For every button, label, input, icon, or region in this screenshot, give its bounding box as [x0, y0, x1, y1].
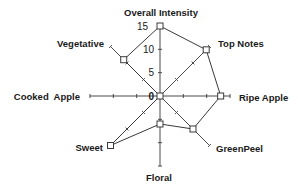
- axis-label-ripe-apple: Ripe Apple: [239, 92, 288, 103]
- axis-label-floral: Floral: [146, 172, 172, 183]
- tick-label-5: 5: [148, 67, 154, 78]
- axis-label-cooked-apple: Cooked Apple: [14, 91, 80, 102]
- data-marker-ripe-apple: [218, 93, 224, 99]
- data-markers: [108, 23, 224, 148]
- axis-label-top-notes: Top Notes: [218, 38, 264, 49]
- axis-label-vegetative: Vegetative: [57, 38, 104, 49]
- axis-line-greenpeel: [160, 96, 209, 145]
- axis-label-green-peel: GreenPeel: [216, 143, 263, 154]
- axis-line-top-notes: [160, 47, 209, 96]
- data-marker-vegetative: [121, 57, 127, 63]
- data-marker-greenpeel: [190, 126, 196, 132]
- tick-label-15: 15: [137, 21, 149, 32]
- axis-label-sweet: Sweet: [76, 142, 104, 153]
- data-marker-sweet: [108, 142, 114, 148]
- data-marker-top-notes: [203, 47, 209, 53]
- axis-label-overall-intensity: Overall Intensity: [124, 7, 199, 18]
- data-marker-overall-intensity: [157, 23, 163, 29]
- data-marker-floral: [157, 121, 163, 127]
- tick-label-10: 10: [143, 44, 155, 55]
- radar-chart: 15 10 5 0 Overall Intensity Top Notes Ri…: [0, 0, 298, 192]
- data-marker-cooked-apple: [157, 93, 163, 99]
- data-polygon: [111, 26, 221, 146]
- tick-label-0: 0: [148, 91, 154, 102]
